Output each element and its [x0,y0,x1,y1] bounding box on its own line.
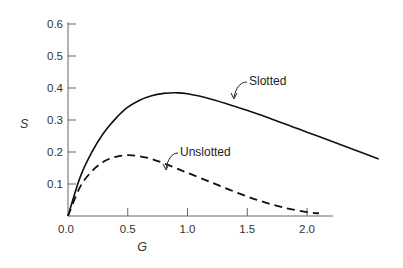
y-tick-label: 0.4 [47,82,64,94]
chart: 0.10.20.30.40.50.60.00.51.01.52.0 S G Sl… [0,0,403,268]
unslotted-label: Unslotted [180,145,231,159]
y-tick-label: 0.1 [47,178,63,190]
unslotted-curve [68,155,319,216]
y-tick-label: 0.2 [47,146,63,158]
y-axis-title: S [20,117,29,131]
x-tick-label: 0.5 [120,223,136,235]
x-tick-label: 0.0 [58,223,74,235]
x-tick-label: 1.0 [180,223,196,235]
y-tick-label: 0.6 [47,18,63,30]
x-axis-title: G [137,240,147,254]
y-tick-label: 0.5 [47,50,63,62]
x-tick-label: 2.0 [299,223,315,235]
slotted-label: Slotted [249,74,286,88]
x-tick-label: 1.5 [239,223,255,235]
y-tick-label: 0.3 [47,114,63,126]
